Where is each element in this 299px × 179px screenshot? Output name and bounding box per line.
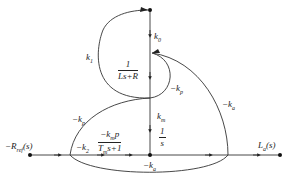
electrical-transfer-function: 1 Ls+R xyxy=(118,60,138,81)
ka-bottom-label: −ka xyxy=(143,161,156,172)
k1-label: k1 xyxy=(86,53,93,64)
k2-label: −k2 xyxy=(76,143,89,154)
km-label: km xyxy=(157,112,165,123)
kp-left-label: −kp xyxy=(72,115,85,126)
kp-upper-label: −kp xyxy=(170,84,183,95)
integrator-transfer-function: 1 s xyxy=(159,127,166,148)
ka-right-label: −ka xyxy=(222,100,235,111)
output-label: La(s) xyxy=(258,141,276,152)
input-label: −Rref(s) xyxy=(5,142,33,153)
k1-branch xyxy=(98,10,150,98)
k0-label: k0 xyxy=(154,32,161,43)
kp-upper-branch xyxy=(150,53,170,98)
signal-flow-graph xyxy=(0,0,299,179)
mechanical-transfer-function: −kmp Tms+1 xyxy=(98,130,121,155)
